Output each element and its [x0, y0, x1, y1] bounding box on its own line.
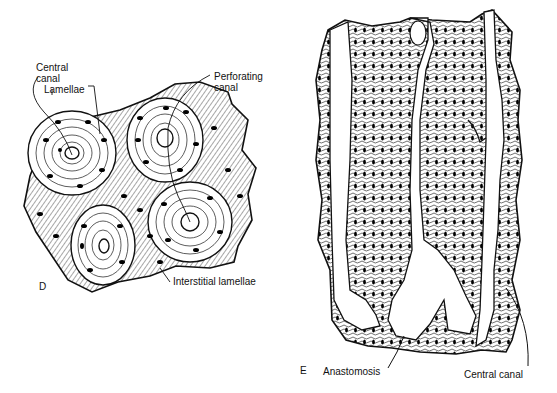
osteon — [28, 111, 116, 195]
label-central-canal-line1: Central — [36, 62, 68, 73]
label-interstitial-lamellae: Interstitial lamellae — [173, 276, 256, 287]
label-central-canal-e: Central canal — [464, 369, 523, 380]
central-canal — [65, 147, 79, 159]
central-canal — [99, 239, 109, 253]
panel-letter-d: D — [39, 281, 46, 292]
label-perforating-canal-line1: Perforating — [214, 71, 263, 82]
central-canal — [157, 129, 173, 147]
panel-letter-e: E — [300, 365, 307, 376]
label-anastomosis: Anastomosis — [323, 366, 380, 377]
panel-e-illustration — [316, 10, 528, 368]
label-lamellae: Lamellae — [44, 84, 85, 95]
figure-canvas — [0, 0, 557, 393]
label-central-canal-line2: canal — [36, 73, 68, 84]
canal-opening — [410, 21, 426, 45]
label-perforating-canal-line2: canal — [214, 82, 263, 93]
label-perforating-canal: Perforating canal — [214, 71, 263, 93]
panel-d-illustration — [24, 75, 256, 292]
label-central-canal: Central canal — [36, 62, 68, 84]
